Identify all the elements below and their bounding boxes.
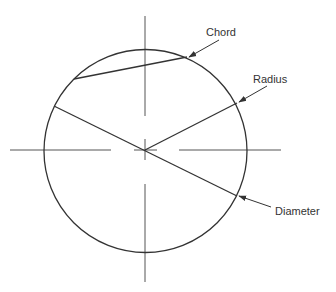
diameter-arrow [239,196,271,207]
radius-line [145,103,237,150]
circle-diagram [0,0,336,292]
center-lines [10,16,281,282]
chord-label: Chord [206,26,236,38]
radius-arrow [239,86,267,102]
chord-line [74,57,187,79]
chord-arrow [189,40,219,57]
radius-label: Radius [253,73,287,85]
diameter-label: Diameter [275,205,320,217]
diameter-line [54,106,237,196]
